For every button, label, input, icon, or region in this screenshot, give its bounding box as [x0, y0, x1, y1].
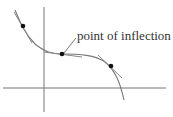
left-point: [21, 24, 26, 29]
inflection-point: [60, 52, 65, 57]
inflection-label: point of inflection: [77, 28, 171, 44]
right-point: [109, 64, 114, 69]
annotation-leader: [64, 38, 76, 53]
inflection-diagram: [0, 0, 173, 117]
